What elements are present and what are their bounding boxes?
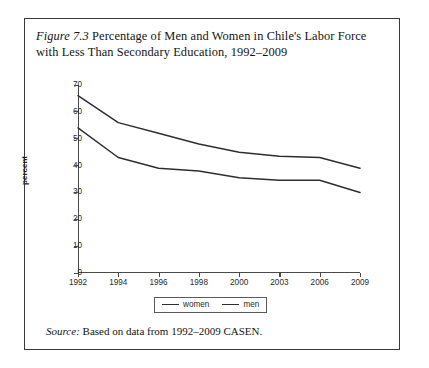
- legend-swatch-men-icon: [222, 304, 239, 305]
- legend-label-women: women: [183, 300, 209, 309]
- source-text: Based on data from 1992–2009 CASEN.: [80, 325, 262, 337]
- x-tick-label-2006: 2006: [300, 278, 340, 287]
- legend-label-men: men: [243, 300, 259, 309]
- x-tick-label-2003: 2003: [259, 278, 299, 287]
- x-tick-label-1992: 1992: [58, 278, 98, 287]
- legend-swatch-women-icon: [162, 304, 179, 305]
- source-note: Source: Based on data from 1992–2009 CAS…: [46, 325, 262, 337]
- x-tick-mark-1992: [78, 273, 79, 277]
- x-tick-mark-2009: [360, 273, 361, 277]
- series-lines: [78, 85, 360, 273]
- figure-number: Figure 7.3: [36, 29, 89, 43]
- line-series-women: [78, 128, 360, 192]
- x-tick-label-1996: 1996: [139, 278, 179, 287]
- plot-area: 010203040506070 199219941996199820002003…: [78, 85, 360, 273]
- legend-item-women: women: [162, 300, 209, 309]
- figure-page: Figure 7.3 Percentage of Men and Women i…: [0, 0, 429, 368]
- x-tick-label-2000: 2000: [219, 278, 259, 287]
- x-tick-label-2009: 2009: [340, 278, 380, 287]
- y-axis-label: percent: [20, 156, 29, 185]
- x-tick-mark-2000: [239, 273, 240, 277]
- source-label: Source:: [46, 325, 80, 337]
- figure-caption: Figure 7.3 Percentage of Men and Women i…: [36, 29, 388, 60]
- x-tick-label-1998: 1998: [179, 278, 219, 287]
- x-tick-mark-2003: [279, 273, 280, 277]
- chart-legend: women men: [154, 297, 267, 313]
- x-tick-mark-1994: [118, 273, 119, 277]
- x-tick-label-1994: 1994: [98, 278, 138, 287]
- x-tick-mark-1996: [159, 273, 160, 277]
- x-tick-mark-1998: [199, 273, 200, 277]
- x-tick-mark-2006: [320, 273, 321, 277]
- legend-item-men: men: [222, 300, 259, 309]
- chart-area: percent 010203040506070 1992199419961998…: [36, 80, 386, 295]
